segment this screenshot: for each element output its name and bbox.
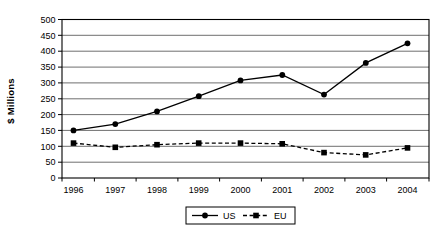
line-chart: $ Millions 05010015020025030035040045050…	[0, 0, 443, 237]
series-line-us	[74, 43, 408, 130]
data-point-us	[363, 60, 369, 66]
x-tick-label: 1996	[63, 185, 83, 195]
legend-label: US	[223, 211, 236, 221]
y-tick-label: 150	[40, 126, 55, 136]
y-axis-title: $ Millions	[5, 78, 16, 123]
x-tick-label: 2001	[272, 185, 292, 195]
data-point-us	[279, 72, 285, 78]
x-tick-label: 2002	[314, 185, 334, 195]
data-point-us	[112, 121, 118, 127]
data-point-us	[71, 127, 77, 133]
y-tick-label: 200	[40, 110, 55, 120]
y-tick-label: 500	[40, 15, 55, 25]
y-tick-label: 400	[40, 46, 55, 56]
y-tick-label: 350	[40, 62, 55, 72]
x-tick-label: 1998	[147, 185, 167, 195]
legend-marker-circle	[202, 213, 208, 219]
chart-screenshot: { "chart_data": { "type": "line", "title…	[0, 0, 443, 237]
data-point-eu	[321, 150, 327, 156]
data-point-eu	[279, 141, 285, 147]
data-point-eu	[405, 145, 411, 151]
plot-area: 0501001502002503003504004505001996199719…	[40, 15, 429, 195]
x-tick-label: 2004	[397, 185, 417, 195]
data-point-eu	[196, 140, 202, 146]
y-tick-label: 50	[45, 157, 55, 167]
data-point-eu	[363, 152, 369, 158]
legend: USEU	[186, 207, 295, 224]
data-point-eu	[113, 145, 119, 151]
data-point-us	[238, 78, 244, 84]
x-tick-label: 2003	[356, 185, 376, 195]
x-tick-label: 2000	[230, 185, 250, 195]
y-tick-label: 100	[40, 142, 55, 152]
data-point-us	[405, 40, 411, 46]
legend-label: EU	[274, 211, 287, 221]
data-point-eu	[71, 140, 77, 146]
data-point-eu	[154, 142, 160, 148]
y-tick-label: 450	[40, 31, 55, 41]
data-point-us	[321, 92, 327, 98]
x-tick-label: 1999	[189, 185, 209, 195]
y-tick-label: 0	[50, 173, 55, 183]
data-point-us	[196, 93, 202, 99]
y-tick-label: 300	[40, 78, 55, 88]
data-point-eu	[238, 140, 244, 146]
data-point-us	[154, 109, 160, 115]
legend-marker-square	[253, 213, 259, 219]
y-tick-label: 250	[40, 94, 55, 104]
x-tick-label: 1997	[105, 185, 125, 195]
